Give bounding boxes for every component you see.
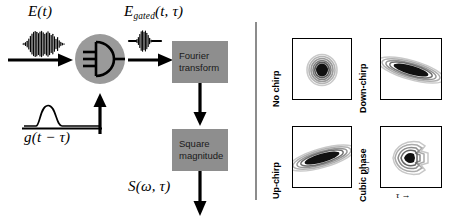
- spectrogram-down-chirp: [380, 38, 442, 100]
- frog-spectrogram-figure: E(t) Egated(t, τ): [0, 0, 458, 221]
- spectrogram-up-chirp: [292, 126, 352, 188]
- gate-beam-arrow: [92, 93, 108, 135]
- gated-field-symbol: E: [124, 3, 133, 19]
- gated-field-label: Egated(t, τ): [124, 3, 183, 21]
- gated-beam-arrow: [128, 52, 174, 68]
- square-magnitude-box: Square magnitude: [172, 129, 228, 171]
- gate-function-label: g(t − τ): [24, 129, 70, 146]
- square-magnitude-line1: Square: [179, 138, 228, 151]
- gate-function-arg: (t − τ): [32, 129, 71, 145]
- output-symbol: S: [128, 178, 136, 194]
- spectrogram-no-chirp-label: No chirp: [271, 70, 281, 107]
- fourier-transform-box: Fourier transform: [172, 41, 228, 83]
- omega-axis-label: ω ↑: [361, 160, 371, 173]
- input-beam-arrow: [8, 52, 74, 68]
- gated-field-arg: (t, τ): [155, 3, 183, 19]
- fourier-transform-line1: Fourier: [179, 50, 228, 63]
- gate-function-symbol: g: [24, 129, 32, 145]
- tau-axis-label: τ →: [396, 190, 410, 200]
- gated-field-subscript: gated: [133, 11, 155, 21]
- square-magnitude-line2: magnitude: [179, 150, 228, 163]
- spectrogram-up-chirp-label: Up-chirp: [271, 162, 281, 199]
- input-field-label: E(t): [28, 3, 52, 20]
- output-arg: (ω, τ): [136, 178, 171, 194]
- fourier-to-square-arrow: [192, 83, 208, 127]
- panel-divider: [255, 22, 257, 200]
- spectrogram-cubic-phase-label: Cubic phase: [358, 148, 368, 202]
- output-arrow: [192, 171, 208, 217]
- spectrogram-down-chirp-label: Down-chirp: [358, 64, 368, 114]
- input-field-label-text: E(t): [28, 3, 52, 19]
- gated-pulse-icon: [129, 30, 163, 52]
- output-label: S(ω, τ): [128, 178, 170, 195]
- optical-gate-icon: [72, 31, 128, 87]
- spectrogram-no-chirp: [292, 38, 352, 100]
- fourier-transform-line2: transform: [179, 62, 228, 75]
- spectrogram-cubic-phase: [380, 126, 442, 188]
